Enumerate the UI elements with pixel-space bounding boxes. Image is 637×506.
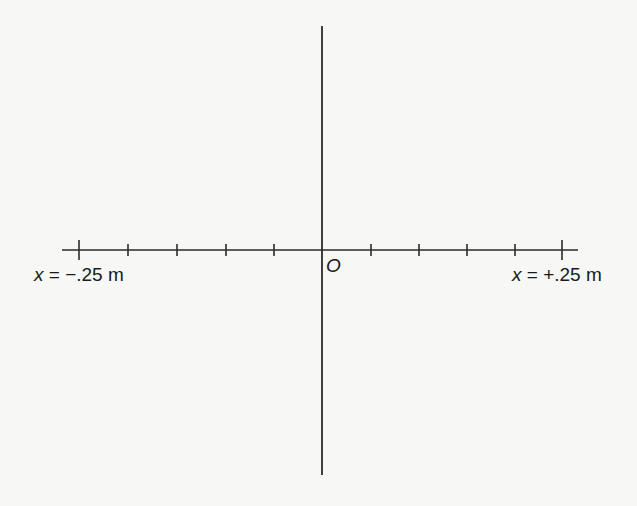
left-value: −.25 m (65, 264, 124, 285)
right-value: +.25 m (543, 264, 602, 285)
axes-diagram (0, 0, 637, 506)
origin-label: O (326, 256, 341, 275)
right-var: x (512, 264, 522, 285)
left-eq: = (44, 264, 66, 285)
right-endpoint-label: x = +.25 m (512, 265, 602, 284)
right-eq: = (522, 264, 544, 285)
left-var: x (34, 264, 44, 285)
left-endpoint-label: x = −.25 m (34, 265, 124, 284)
